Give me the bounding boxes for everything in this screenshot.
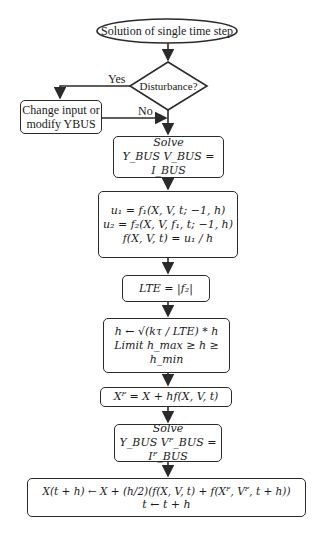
u-line1: u₁ = f₁(X, V, t; −1, h)	[111, 204, 226, 218]
corrector-box: X(t + h) ← X + (h/2)(f(X, V, t) + f(Xᴾ, …	[27, 478, 306, 517]
change-line1: Change input or	[22, 103, 99, 117]
u-line3: f(X, V, t) = u₁ / h	[123, 232, 213, 246]
final-line2: t ← t + h	[142, 498, 190, 512]
no-label: No	[138, 104, 153, 119]
solve1-line1: Solve	[153, 136, 183, 150]
lte-line1: LTE = |f₂|	[139, 282, 193, 296]
change-input-box: Change input or modify YBUS	[20, 100, 102, 134]
final-line1: X(t + h) ← X + (h/2)(f(X, V, t) + f(Xᴾ, …	[42, 484, 290, 498]
u-line2: u₂ = f₂(X, V, f₁, t; −1, h)	[103, 218, 233, 232]
start-label: Solution of single time step	[101, 24, 233, 39]
solve-network-box: Solve Y_BUS V_BUS = I_BUS	[113, 136, 224, 178]
lte-box: LTE = |f₂|	[122, 275, 210, 302]
h-line2: Limit h_max ≥ h ≥ h_min	[104, 339, 229, 367]
xp-line1: Xᴾ = X + hf(X, V, t)	[114, 390, 219, 404]
solve1-line2: Y_BUS V_BUS = I_BUS	[114, 150, 223, 178]
predictor-box: Xᴾ = X + hf(X, V, t)	[100, 387, 232, 407]
start-terminal: Solution of single time step	[97, 19, 237, 43]
solve-predicted-box: Solve Y_BUS Vᴾ_BUS = Iᴾ_BUS	[114, 424, 222, 462]
decision-label: Disturbance?	[139, 80, 197, 92]
solve2-line2: Y_BUS Vᴾ_BUS = Iᴾ_BUS	[115, 436, 221, 464]
disturbance-decision: Disturbance?	[130, 62, 207, 110]
h-line1: h ← √(kτ / LTE) * h	[115, 325, 219, 339]
derivative-box: u₁ = f₁(X, V, t; −1, h) u₂ = f₂(X, V, f₁…	[98, 191, 238, 258]
yes-label: Yes	[108, 72, 125, 87]
step-size-box: h ← √(kτ / LTE) * h Limit h_max ≥ h ≥ h_…	[103, 318, 230, 373]
change-line2: modify YBUS	[26, 117, 95, 131]
solve2-line1: Solve	[153, 422, 183, 436]
